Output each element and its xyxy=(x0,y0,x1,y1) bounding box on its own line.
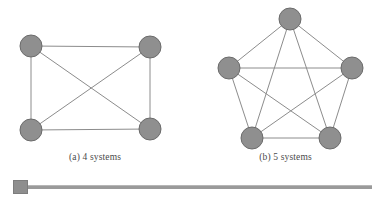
graph-edge xyxy=(31,46,150,129)
graph-node xyxy=(139,36,161,58)
edges-layer xyxy=(31,19,352,138)
graph-node xyxy=(241,127,263,149)
graph-node xyxy=(319,127,341,149)
graphs-canvas xyxy=(0,0,381,170)
nodes-layer xyxy=(20,8,363,149)
graph-node xyxy=(218,57,240,79)
graph-node xyxy=(20,35,42,57)
graph-node xyxy=(279,8,301,30)
graph-edge xyxy=(290,19,352,68)
graph-edge xyxy=(229,19,290,68)
graph-edge xyxy=(229,68,330,138)
scrollbar-thumb[interactable] xyxy=(13,180,28,194)
graph-edge xyxy=(290,19,330,138)
caption-5-systems: (b) 5 systems xyxy=(190,152,381,162)
graph-edge xyxy=(252,68,352,138)
caption-4-systems: (a) 4 systems xyxy=(0,152,190,162)
graph-edge xyxy=(31,129,150,130)
graph-edge xyxy=(31,47,150,130)
figure-container: (a) 4 systems (b) 5 systems xyxy=(0,0,381,197)
graph-node xyxy=(341,57,363,79)
horizontal-scrollbar[interactable] xyxy=(0,176,381,197)
graph-edge xyxy=(31,46,150,47)
scrollbar-track[interactable] xyxy=(22,185,372,189)
graph-node xyxy=(20,119,42,141)
graph-edge xyxy=(252,19,290,138)
graph-node xyxy=(139,118,161,140)
